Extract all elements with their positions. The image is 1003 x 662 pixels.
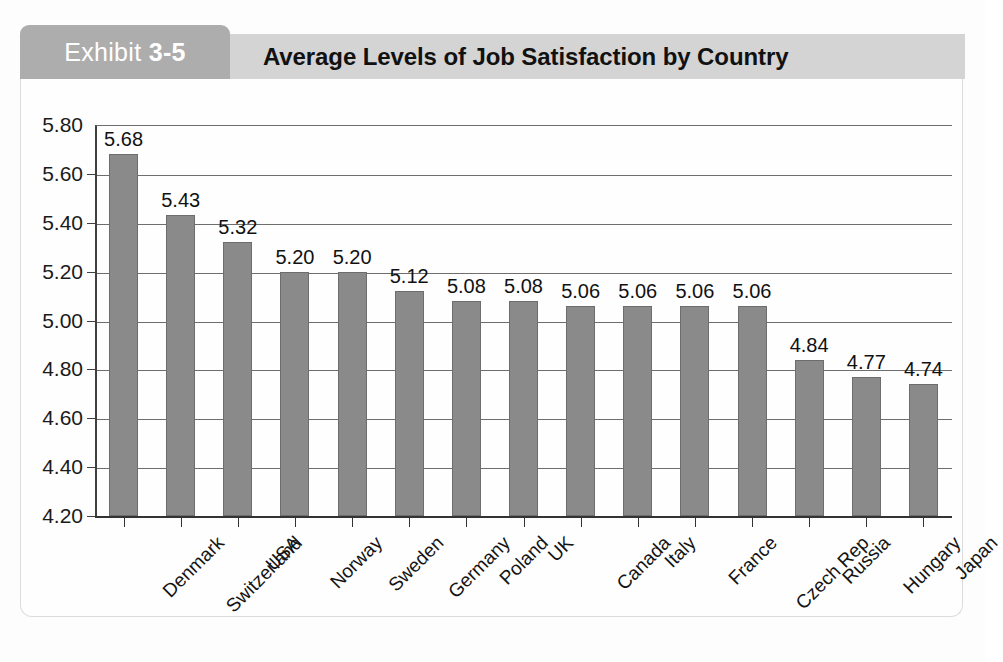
- y-axis-tick-label: 4.40: [13, 455, 83, 479]
- bar-value-label: 5.32: [218, 216, 257, 239]
- y-axis-tick-label: 4.20: [13, 504, 83, 528]
- bar: [223, 242, 252, 516]
- x-axis-tick-mark: [809, 518, 810, 527]
- bar: [795, 360, 824, 516]
- bar: [280, 272, 309, 516]
- bar-value-label: 5.68: [104, 128, 143, 151]
- exhibit-title: Average Levels of Job Satisfaction by Co…: [263, 43, 788, 71]
- bar-value-label: 5.12: [390, 265, 429, 288]
- y-axis-tick-label: 5.80: [13, 113, 83, 137]
- bar-value-label: 5.08: [504, 275, 543, 298]
- bar: [338, 272, 367, 516]
- y-axis-tick-label: 5.20: [13, 260, 83, 284]
- bar-value-label: 4.74: [904, 358, 943, 381]
- x-axis-tick-mark: [295, 518, 296, 527]
- bar: [509, 301, 538, 516]
- bar: [909, 384, 938, 516]
- x-axis-tick-mark: [409, 518, 410, 527]
- bar-value-label: 5.08: [447, 275, 486, 298]
- x-axis-tick-mark: [695, 518, 696, 527]
- bar: [566, 306, 595, 516]
- exhibit-tab: Exhibit 3-5: [20, 25, 230, 79]
- x-axis-tick-mark: [238, 518, 239, 527]
- x-axis-tick-mark: [638, 518, 639, 527]
- x-axis-tick-mark: [923, 518, 924, 527]
- y-axis-tick-mark: [87, 321, 95, 322]
- gridline: [97, 175, 952, 176]
- y-axis-tick-mark: [87, 516, 95, 517]
- bar: [852, 377, 881, 516]
- exhibit-tab-label: Exhibit 3-5: [20, 38, 230, 67]
- y-axis-tick-mark: [87, 272, 95, 273]
- x-axis-tick-mark: [752, 518, 753, 527]
- bar: [738, 306, 767, 516]
- bar: [109, 154, 138, 516]
- x-axis-tick-mark: [181, 518, 182, 527]
- bar-value-label: 4.84: [790, 334, 829, 357]
- y-axis-tick-label: 5.40: [13, 211, 83, 235]
- exhibit-tab-number: 3-5: [149, 38, 186, 66]
- y-axis-tick-label: 5.60: [13, 162, 83, 186]
- bar: [680, 306, 709, 516]
- bar: [166, 215, 195, 516]
- bar: [395, 291, 424, 516]
- y-axis-tick-mark: [87, 467, 95, 468]
- x-axis-tick-mark: [524, 518, 525, 527]
- y-axis-tick-label: 4.60: [13, 406, 83, 430]
- bar-value-label: 5.06: [733, 280, 772, 303]
- exhibit-tab-prefix: Exhibit: [64, 38, 141, 66]
- bar-value-label: 5.43: [161, 189, 200, 212]
- x-axis-tick-mark: [352, 518, 353, 527]
- bar-value-label: 5.20: [275, 246, 314, 269]
- x-axis-tick-mark: [124, 518, 125, 527]
- y-axis-tick-mark: [87, 174, 95, 175]
- bar: [623, 306, 652, 516]
- y-axis-tick-mark: [87, 418, 95, 419]
- bar-value-label: 5.06: [675, 280, 714, 303]
- bar: [452, 301, 481, 516]
- y-axis-tick-mark: [87, 223, 95, 224]
- x-axis-tick-mark: [866, 518, 867, 527]
- bar-value-label: 4.77: [847, 351, 886, 374]
- x-axis-tick-mark: [466, 518, 467, 527]
- y-axis-tick-mark: [87, 369, 95, 370]
- y-axis-tick-label: 5.00: [13, 309, 83, 333]
- bar-value-label: 5.06: [618, 280, 657, 303]
- y-axis-tick-label: 4.80: [13, 357, 83, 381]
- bar-value-label: 5.06: [561, 280, 600, 303]
- x-axis-tick-mark: [581, 518, 582, 527]
- bar-value-label: 5.20: [333, 246, 372, 269]
